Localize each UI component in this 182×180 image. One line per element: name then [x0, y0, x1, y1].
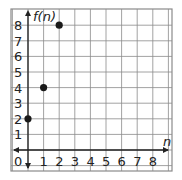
- y-tick-label: 4: [14, 81, 22, 96]
- data-point: [40, 84, 47, 91]
- x-tick-label: 1: [40, 154, 48, 169]
- y-tick-label: 7: [14, 34, 22, 49]
- y-axis-label: f(n): [33, 9, 56, 24]
- x-tick-label: 2: [55, 154, 63, 169]
- data-point: [24, 115, 31, 122]
- x-axis-label: n: [163, 134, 171, 149]
- grid-frame: [11, 9, 172, 171]
- x-tick-label: 7: [133, 154, 141, 169]
- y-tick-label: 8: [14, 18, 22, 33]
- y-tick-label: 5: [14, 65, 22, 80]
- y-tick-label: 2: [14, 112, 22, 127]
- x-axis-arrow-left-icon: [13, 147, 19, 153]
- x-tick-label: 3: [71, 154, 79, 169]
- x-tick-label: 6: [118, 154, 126, 169]
- y-tick-label: 6: [14, 49, 22, 64]
- y-tick-label: 1: [14, 127, 22, 142]
- x-tick-label: 8: [149, 154, 157, 169]
- chart: 12345678123456780f(n)n: [0, 0, 182, 180]
- x-tick-label: 5: [102, 154, 110, 169]
- y-tick-label: 3: [14, 96, 22, 111]
- origin-label: 0: [14, 154, 22, 169]
- x-tick-label: 4: [86, 154, 94, 169]
- y-axis-arrow-up-icon: [25, 10, 31, 16]
- data-point: [56, 22, 63, 29]
